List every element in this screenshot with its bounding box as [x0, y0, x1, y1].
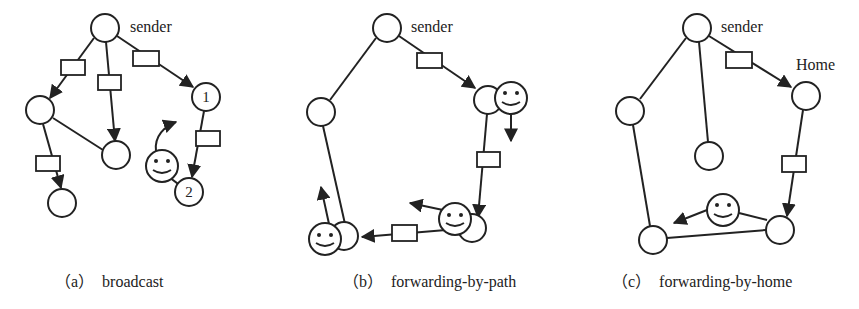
diagram-canvas: sender 1 2 （a）broadcast [0, 0, 859, 309]
message-box [133, 51, 159, 66]
node [616, 97, 644, 125]
home-node [792, 82, 820, 110]
mobile-user-smiley-icon [495, 82, 527, 114]
edge-sender-left [640, 38, 686, 99]
edge-bottomleft-bottomright [667, 230, 766, 238]
home-label: Home [796, 56, 835, 73]
edge-left-middle [53, 118, 103, 150]
sender-node [373, 14, 401, 42]
caption-prefix: （c） [612, 273, 651, 290]
caption-a: （a）broadcast [55, 273, 164, 290]
node [307, 98, 335, 126]
edge-sender-left [330, 38, 376, 100]
caption-c: （c）forwarding-by-home [612, 273, 792, 291]
message-box [196, 131, 220, 146]
caption-prefix: （a） [55, 273, 94, 290]
caption-prefix: （b） [343, 273, 383, 290]
message-box [477, 152, 500, 167]
node [48, 189, 76, 217]
message-box [726, 52, 752, 68]
node [639, 226, 667, 254]
edge-smiley-bottomright [739, 213, 767, 220]
message-box [392, 225, 417, 241]
mobile-user-smiley-icon [707, 194, 739, 226]
edge-sender-middle [699, 42, 708, 142]
mobile-user-move-arrow [321, 187, 329, 224]
sender-node [683, 14, 711, 42]
node-number-1: 1 [202, 89, 210, 105]
message-box [36, 156, 60, 171]
node [695, 142, 723, 170]
message-box [782, 156, 806, 172]
edge-sender-middle [106, 42, 115, 141]
caption-text: broadcast [102, 273, 164, 290]
node [766, 216, 794, 244]
sender-label: sender [721, 18, 763, 35]
mobile-user-move-arrow [674, 210, 707, 223]
sender-label: sender [130, 18, 172, 35]
message-box [61, 60, 85, 75]
panel-b-forwarding-by-path: sender （b）forwarding-by-path [307, 14, 527, 291]
mobile-user-smiley-icon [439, 203, 471, 235]
panel-a-broadcast: sender 1 2 （a）broadcast [26, 14, 220, 290]
caption-text: forwarding-by-home [659, 273, 792, 291]
node [26, 96, 54, 124]
caption-b: （b）forwarding-by-path [343, 273, 516, 291]
panel-c-forwarding-by-home: sender Home （c）forwarding-by-home [612, 14, 835, 291]
mobile-user-smiley-icon [309, 223, 341, 255]
node [102, 141, 130, 169]
node-number-2: 2 [185, 184, 193, 200]
mobile-user-move-arrow [156, 122, 176, 151]
message-box [417, 53, 442, 68]
edge-left-bottomleft [633, 125, 650, 226]
caption-text: forwarding-by-path [391, 273, 516, 291]
sender-label: sender [411, 18, 453, 35]
sender-node [91, 14, 119, 42]
mobile-user-smiley-icon [146, 150, 178, 182]
message-box [98, 75, 121, 90]
mobile-user-move-arrow [410, 203, 443, 210]
